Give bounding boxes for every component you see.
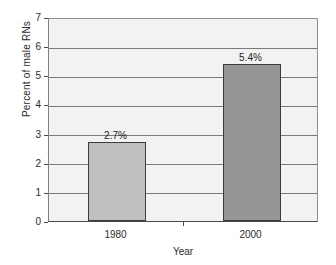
y-tick-mark	[44, 76, 48, 77]
x-tick-label-2000: 2000	[221, 229, 281, 241]
y-tick-label: 4	[26, 100, 41, 110]
x-axis-title: Year	[48, 246, 318, 258]
y-tick-mark	[44, 135, 48, 136]
bar-1980	[88, 142, 146, 221]
y-tick-mark	[44, 164, 48, 165]
bar-value-label-2000: 5.4%	[221, 52, 281, 63]
y-tick-label: 5	[26, 71, 41, 81]
bar-2000	[223, 64, 281, 221]
x-tick-mark	[183, 222, 184, 226]
y-tick-label: 3	[26, 130, 41, 140]
y-tick-mark	[44, 47, 48, 48]
y-tick-label: 6	[26, 42, 41, 52]
plot-area	[48, 18, 318, 222]
y-tick-label: 0	[26, 217, 41, 227]
y-tick-mark	[44, 18, 48, 19]
y-tick-label: 2	[26, 159, 41, 169]
y-tick-mark	[44, 105, 48, 106]
bar-chart-figure: Percent of male RNs 01234567 19802000 2.…	[0, 0, 336, 265]
y-tick-label: 7	[26, 13, 41, 23]
bar-value-label-1980: 2.7%	[86, 130, 146, 141]
y-tick-mark	[44, 193, 48, 194]
x-tick-label-1980: 1980	[86, 229, 146, 241]
y-tick-mark	[44, 222, 48, 223]
gridline	[49, 48, 317, 49]
y-tick-label: 1	[26, 188, 41, 198]
